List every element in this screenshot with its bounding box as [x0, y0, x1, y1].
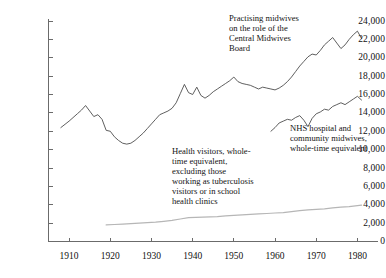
series-annotation-health-visitors: Health visitors, whole- time equivalent,… [172, 147, 276, 206]
y-axis-tick-label: 0 [341, 236, 385, 246]
y-axis-tick-label: 20,000 [341, 52, 385, 62]
y-axis-tick-label: 16,000 [341, 89, 385, 99]
y-axis-tick-label: 18,000 [341, 71, 385, 81]
series-annotation-practising-midwives: Practising midwives on the role of the C… [229, 14, 339, 54]
x-axis-tick-label: 1960 [255, 251, 295, 261]
series-line [106, 205, 361, 225]
x-axis-tick-label: 1940 [173, 251, 213, 261]
x-axis-tick-label: 1910 [49, 251, 89, 261]
y-axis-tick-label: 22,000 [341, 34, 385, 44]
y-axis-tick-label: 2,000 [341, 218, 385, 228]
x-axis-tick-label: 1980 [337, 251, 377, 261]
x-axis-tick-label: 1970 [296, 251, 336, 261]
y-axis-tick-label: 14,000 [341, 107, 385, 117]
y-axis-tick-label: 8,000 [341, 163, 385, 173]
x-axis-tick-label: 1920 [90, 251, 130, 261]
y-axis-tick-label: 24,000 [341, 16, 385, 26]
y-axis-tick-label: 4,000 [341, 199, 385, 209]
x-axis-tick-label: 1950 [214, 251, 254, 261]
y-axis-tick-label: 6,000 [341, 181, 385, 191]
x-axis-tick-label: 1930 [131, 251, 171, 261]
series-annotation-nhs-midwives: NHS hospital and community midwives, who… [290, 124, 386, 154]
